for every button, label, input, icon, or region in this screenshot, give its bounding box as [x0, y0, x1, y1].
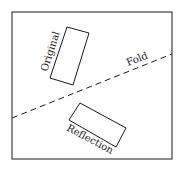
original-label: Original [38, 30, 61, 73]
reflection-label: Reflection [65, 122, 116, 156]
diagram-svg: Original Fold Reflection [0, 0, 181, 169]
fold-line [12, 54, 172, 118]
reflection-diagram: Original Fold Reflection [0, 0, 181, 169]
fold-label: Fold [125, 49, 150, 67]
